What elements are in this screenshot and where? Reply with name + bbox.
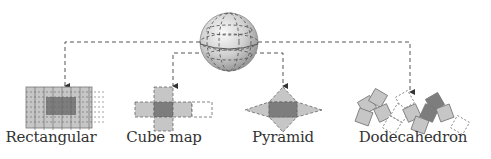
rectangular-projection-icon xyxy=(26,87,104,130)
connector-cube-map xyxy=(173,53,206,86)
label-rectangular: Rectangular xyxy=(5,128,96,146)
sphere-icon xyxy=(200,13,258,71)
connector-pyramid xyxy=(253,53,283,86)
label-cube-map: Cube map xyxy=(126,128,202,146)
label-dodecahedron: Dodecahedron xyxy=(359,128,467,146)
connector-rectangular xyxy=(65,42,200,86)
connector-dodecahedron xyxy=(258,42,410,92)
pyramid-projection-icon xyxy=(245,87,322,132)
label-pyramid: Pyramid xyxy=(252,128,314,146)
projection-diagram: Rectangular Cube map Pyramid Dodecahedro… xyxy=(0,0,491,159)
cube-map-projection-icon xyxy=(135,87,212,131)
